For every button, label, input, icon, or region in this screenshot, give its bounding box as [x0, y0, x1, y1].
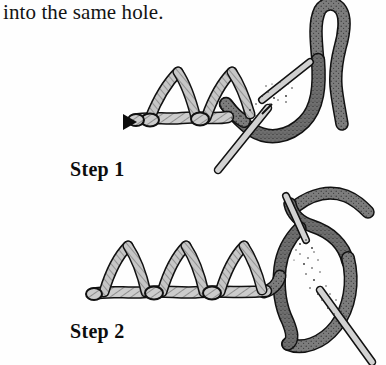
- step-2-drawing: [0, 0, 386, 365]
- step-1-drawing: [0, 0, 386, 365]
- step-2-label: Step 2: [70, 320, 125, 343]
- step2-working-thread: [264, 193, 368, 346]
- step1-stipple-dots: [231, 81, 293, 127]
- caption-text: into the same hole.: [3, 0, 383, 24]
- step1-needle: [218, 104, 272, 170]
- step2-needle-upper: [286, 196, 306, 240]
- step1-stitch-chain: [128, 72, 250, 127]
- step2-stitch-chain: [86, 246, 266, 300]
- step-1-figure: [0, 0, 386, 365]
- step-2-figure: [0, 0, 386, 365]
- step2-needle-lower: [320, 290, 372, 362]
- step-1-label: Step 1: [70, 158, 125, 181]
- step1-needle-tip: [262, 62, 310, 100]
- illustration-page: into the same hole.: [0, 0, 386, 365]
- start-arrow-icon: [123, 114, 137, 130]
- step2-stipple-dots: [293, 239, 344, 316]
